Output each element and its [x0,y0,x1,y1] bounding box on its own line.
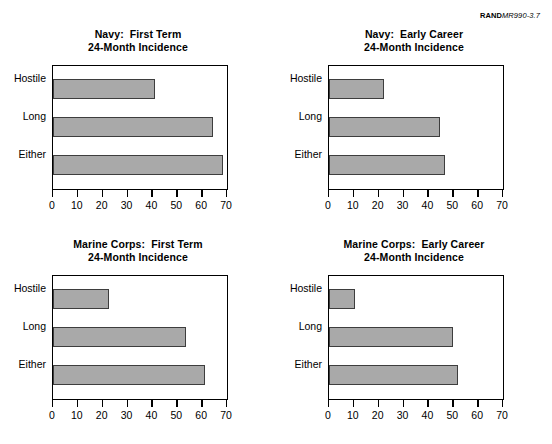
bar [329,327,453,347]
bar [53,289,109,309]
x-axis-tick-label: 70 [487,199,517,211]
category-label: Long [252,110,322,122]
x-axis-tick [353,190,354,197]
x-axis-tick [201,400,202,407]
plot-area [328,65,504,190]
plot-area [52,65,228,190]
bar-row [329,79,503,99]
bar-row [53,155,227,175]
x-axis-tick [77,190,78,197]
bar-row [329,155,503,175]
x-axis-tick-label: 70 [211,199,241,211]
category-label: Either [0,358,46,370]
x-axis-tick [52,400,53,407]
bar-row [329,327,503,347]
x-axis-tick [127,190,128,197]
category-label: Hostile [0,282,46,294]
bar-row [53,327,227,347]
x-axis-tick [427,190,428,197]
x-axis-tick [328,190,329,197]
x-axis-tick [403,400,404,407]
x-axis-tick [452,400,453,407]
bar [53,155,223,175]
source-credit: RANDMR990-3.7 [480,11,540,20]
x-axis-tick [378,190,379,197]
category-label: Hostile [252,282,322,294]
x-axis-tick [452,190,453,197]
panel-title: Navy: Early Career24-Month Incidence [276,28,552,54]
bar-row [53,365,227,385]
bars-layer [53,66,227,189]
x-axis-tick [328,400,329,407]
panel-title-line2: 24-Month Incidence [276,41,552,54]
x-axis-tick [176,400,177,407]
panel-title-line1: Marine Corps: First Term [73,238,203,250]
x-axis-tick [77,400,78,407]
bar-row [53,117,227,137]
panel-title: Navy: First Term24-Month Incidence [0,28,276,54]
x-axis-tick [151,400,152,407]
bars-layer [329,66,503,189]
panel-title: Marine Corps: First Term24-Month Inciden… [0,238,276,264]
chart-panel: Marine Corps: First Term24-Month Inciden… [0,232,276,442]
x-axis: 010203040506070 [52,400,226,424]
x-axis-tick [226,190,227,197]
x-axis-tick [226,400,227,407]
chart-panel: Navy: First Term24-Month IncidenceHostil… [0,22,276,232]
bar [53,79,155,99]
x-axis-tick [502,190,503,197]
panel-title-line1: Navy: First Term [95,28,182,40]
bar [329,79,384,99]
x-axis-tick [353,400,354,407]
panel-title-line2: 24-Month Incidence [0,251,276,264]
panel-title-line1: Marine Corps: Early Career [343,238,484,250]
panel-title-line1: Navy: Early Career [365,28,463,40]
x-axis-tick [102,400,103,407]
bar-row [53,289,227,309]
category-label: Long [0,110,46,122]
bar-row [329,365,503,385]
x-axis-tick [427,400,428,407]
x-axis-tick-label: 70 [211,409,241,421]
category-label: Long [252,320,322,332]
plot-area [52,275,228,400]
bar [329,365,458,385]
x-axis-tick [102,190,103,197]
source-credit-mark: RAND [480,11,502,20]
x-axis: 010203040506070 [52,190,226,214]
plot-area [328,275,504,400]
chart-panel: Marine Corps: Early Career24-Month Incid… [276,232,552,442]
panel-title-line2: 24-Month Incidence [0,41,276,54]
x-axis-tick [477,190,478,197]
panel-title: Marine Corps: Early Career24-Month Incid… [276,238,552,264]
x-axis-tick-label: 70 [487,409,517,421]
bar [53,117,213,137]
category-label: Either [252,358,322,370]
x-axis: 010203040506070 [328,190,502,214]
category-label: Hostile [0,72,46,84]
category-label: Either [252,148,322,160]
bar-row [53,79,227,99]
bar [329,289,355,309]
x-axis: 010203040506070 [328,400,502,424]
x-axis-tick [127,400,128,407]
bar [53,327,186,347]
chart-panel-grid: Navy: First Term24-Month IncidenceHostil… [0,22,552,442]
bar [53,365,205,385]
bar [329,155,445,175]
x-axis-tick [176,190,177,197]
x-axis-tick [201,190,202,197]
x-axis-tick [403,190,404,197]
bar-row [329,289,503,309]
x-axis-tick [378,400,379,407]
bar-row [329,117,503,137]
panel-title-line2: 24-Month Incidence [276,251,552,264]
bars-layer [53,276,227,399]
source-credit-document: MR990-3.7 [502,11,540,20]
bar [329,117,440,137]
category-label: Either [0,148,46,160]
x-axis-tick [477,400,478,407]
chart-panel: Navy: Early Career24-Month IncidenceHost… [276,22,552,232]
bars-layer [329,276,503,399]
x-axis-tick [502,400,503,407]
